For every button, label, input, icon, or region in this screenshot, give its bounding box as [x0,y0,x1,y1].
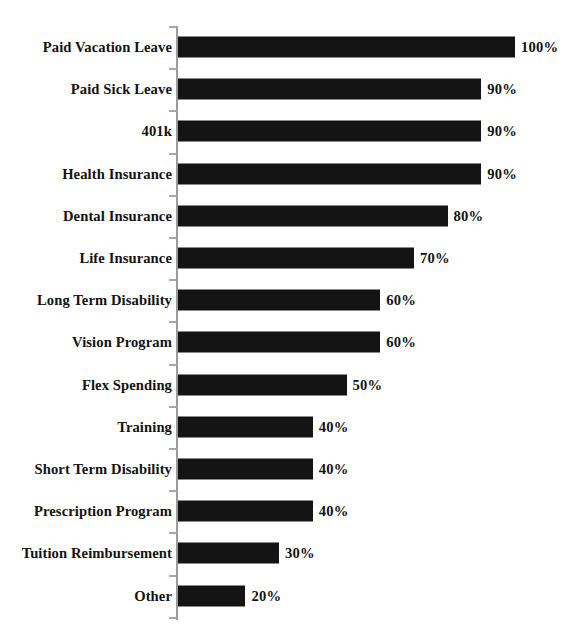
bar [178,79,481,100]
category-label: 401k [142,123,172,140]
bar [178,332,380,353]
bar-group: 40% [178,416,349,437]
axis-tick [169,448,177,450]
bar [178,248,414,269]
bar-chart: Paid Vacation Leave100%Paid Sick Leave90… [0,0,570,628]
axis-tick [169,532,177,534]
bar [178,121,481,142]
bar-group: 90% [178,163,517,184]
bar-group: 60% [178,332,416,353]
bar-group: 100% [178,37,558,58]
bar [178,459,313,480]
bar [178,205,448,226]
bar-value-label: 100% [521,39,558,56]
bar-value-label: 60% [386,292,416,309]
category-label: Dental Insurance [63,207,172,224]
bar-value-label: 50% [353,376,383,393]
bar-row: Vision Program60% [0,321,570,363]
bar [178,543,279,564]
category-label: Health Insurance [62,165,172,182]
category-label: Training [117,418,172,435]
category-label: Vision Program [72,334,172,351]
bar-group: 20% [178,585,281,606]
axis-tick [169,110,177,112]
bar-value-label: 90% [487,123,517,140]
axis-tick [169,406,177,408]
bar-row: Prescription Program40% [0,490,570,532]
bar-row: Paid Sick Leave90% [0,68,570,110]
bar-value-label: 80% [454,207,484,224]
bar-row: Short Term Disability40% [0,448,570,490]
bar [178,163,481,184]
bar-group: 60% [178,290,416,311]
category-label: Paid Sick Leave [71,81,172,98]
bar-value-label: 40% [319,418,349,435]
bar-row: Long Term Disability60% [0,279,570,321]
bar-row: Paid Vacation Leave100% [0,26,570,68]
bar-group: 50% [178,374,382,395]
category-label: Short Term Disability [34,461,172,478]
category-label: Prescription Program [34,503,172,520]
bar-row: Other20% [0,575,570,617]
category-label: Life Insurance [79,250,172,267]
bar-group: 90% [178,79,517,100]
axis-tick [169,617,177,619]
bar-group: 40% [178,501,349,522]
category-label: Other [134,587,172,604]
bar-value-label: 70% [420,250,450,267]
bar-value-label: 40% [319,461,349,478]
category-label: Long Term Disability [37,292,172,309]
bar-value-label: 60% [386,334,416,351]
bar [178,585,245,606]
bar-row: Dental Insurance80% [0,195,570,237]
axis-tick [169,575,177,577]
category-label: Paid Vacation Leave [43,39,172,56]
axis-tick [169,195,177,197]
bar-row: Life Insurance70% [0,237,570,279]
bar-value-label: 30% [285,545,315,562]
bar-group: 70% [178,248,450,269]
bar-group: 30% [178,543,315,564]
bar-value-label: 40% [319,503,349,520]
bar-row: Training40% [0,406,570,448]
axis-tick [169,237,177,239]
bar [178,374,347,395]
bar [178,501,313,522]
bar-group: 80% [178,205,483,226]
axis-tick [169,26,177,28]
bar-group: 90% [178,121,517,142]
bar-row: Tuition Reimbursement30% [0,532,570,574]
axis-tick [169,490,177,492]
category-label: Tuition Reimbursement [22,545,172,562]
bar [178,416,313,437]
axis-tick [169,153,177,155]
axis-tick [169,279,177,281]
axis-tick [169,364,177,366]
bar-row: Flex Spending50% [0,364,570,406]
axis-tick [169,68,177,70]
category-label: Flex Spending [82,376,172,393]
bar-group: 40% [178,459,349,480]
bar-row: Health Insurance90% [0,153,570,195]
bar [178,290,380,311]
bar-value-label: 90% [487,81,517,98]
bar-row: 401k90% [0,110,570,152]
axis-tick [169,321,177,323]
plot-area: Paid Vacation Leave100%Paid Sick Leave90… [0,0,570,628]
bar-value-label: 20% [251,587,281,604]
bar-value-label: 90% [487,165,517,182]
bar [178,37,515,58]
